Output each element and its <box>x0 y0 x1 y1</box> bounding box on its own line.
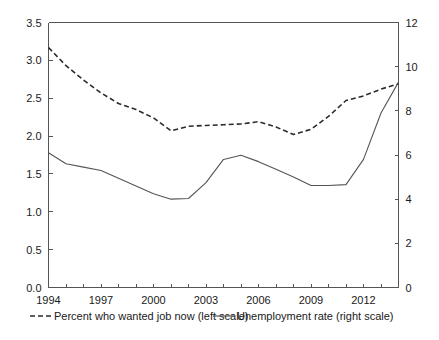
chart-legend: Percent who wanted job now (left scale)U… <box>30 310 394 322</box>
right-tick-label: 0 <box>406 282 412 294</box>
right-tick-label: 2 <box>406 237 412 249</box>
chart-figure: 0.00.51.01.52.02.53.03.5 024681012 19941… <box>0 0 439 340</box>
x-tick-label: 2009 <box>299 294 323 306</box>
line-chart: 0.00.51.01.52.02.53.03.5 024681012 19941… <box>0 0 439 340</box>
series-line-dashed <box>49 47 399 134</box>
left-tick-label: 3.0 <box>26 54 41 66</box>
left-tick-label: 3.5 <box>26 17 41 29</box>
left-tick-label: 2.0 <box>26 130 41 142</box>
left-tick-label: 0.0 <box>26 282 41 294</box>
x-axis-ticks: 1994199720002003200620092012 <box>36 294 375 306</box>
x-tick-label: 2000 <box>141 294 165 306</box>
right-tick-label: 8 <box>406 105 412 117</box>
right-tick-label: 4 <box>406 193 412 205</box>
right-axis-ticks: 024681012 <box>395 17 418 294</box>
right-tick-label: 10 <box>406 61 418 73</box>
x-tick-label: 2003 <box>194 294 218 306</box>
left-tick-label: 2.5 <box>26 92 41 104</box>
x-axis-minor-ticks <box>49 284 399 288</box>
legend-label: Unemployment rate (right scale) <box>237 310 394 322</box>
x-tick-label: 2012 <box>351 294 375 306</box>
axes-frame <box>49 23 399 288</box>
right-tick-label: 12 <box>406 17 418 29</box>
x-tick-label: 1997 <box>89 294 113 306</box>
x-tick-label: 2006 <box>246 294 270 306</box>
right-tick-label: 6 <box>406 149 412 161</box>
left-tick-label: 1.5 <box>26 168 41 180</box>
series-layer <box>49 47 399 199</box>
left-tick-label: 1.0 <box>26 206 41 218</box>
left-tick-label: 0.5 <box>26 244 41 256</box>
x-tick-label: 1994 <box>36 294 60 306</box>
